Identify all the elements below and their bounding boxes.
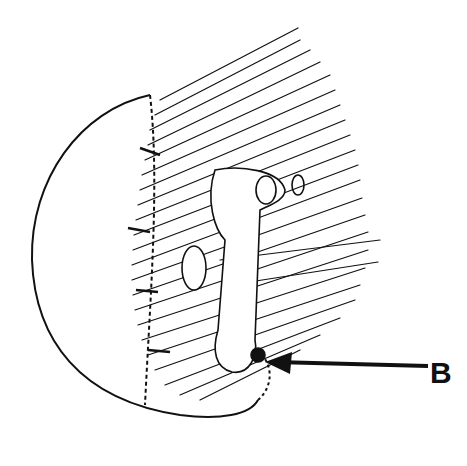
label-b: B [430, 356, 451, 390]
inner-structures [182, 168, 304, 372]
arrow-b [265, 352, 428, 374]
anatomical-illustration [0, 0, 467, 466]
